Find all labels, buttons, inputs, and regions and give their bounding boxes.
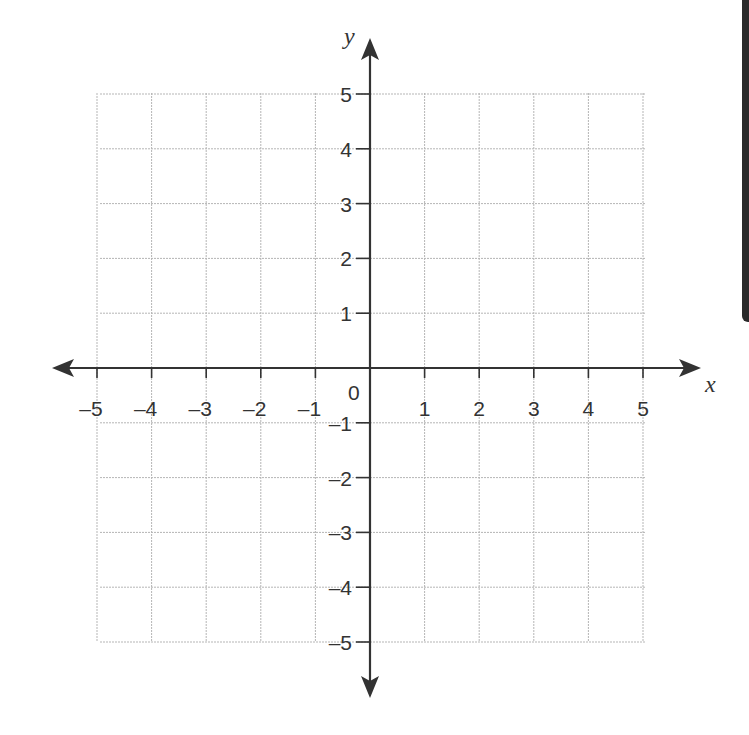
y-tick-label: –2 [329, 467, 352, 490]
x-tick-label: 5 [637, 397, 649, 420]
y-tick-label: –3 [329, 521, 352, 544]
coordinate-plane: –5–4–3–2–11234554321–1–2–3–4–5 y x 0 [0, 0, 749, 735]
x-tick-label: 1 [419, 397, 431, 420]
y-tick-label: –4 [329, 576, 353, 599]
x-tick-label: –2 [243, 397, 266, 420]
x-tick-label: –1 [298, 397, 321, 420]
x-axis-label: x [704, 371, 716, 397]
y-axis-label: y [342, 23, 355, 49]
x-tick-label: 4 [583, 397, 595, 420]
x-tick-label: –4 [134, 397, 158, 420]
y-tick-label: –1 [329, 412, 352, 435]
y-tick-label: 1 [340, 302, 352, 325]
y-tick-label: 2 [340, 247, 352, 270]
y-tick-label: 4 [340, 138, 352, 161]
origin-label: 0 [348, 381, 360, 404]
x-tick-label: –5 [79, 397, 102, 420]
x-tick-label: 2 [473, 397, 485, 420]
y-tick-label: 3 [340, 193, 352, 216]
y-tick-label: –5 [329, 631, 352, 654]
side-panel-edge [742, 0, 749, 322]
x-tick-label: 3 [528, 397, 540, 420]
axes [52, 38, 701, 698]
x-tick-label: –3 [189, 397, 212, 420]
y-tick-label: 5 [340, 83, 352, 106]
